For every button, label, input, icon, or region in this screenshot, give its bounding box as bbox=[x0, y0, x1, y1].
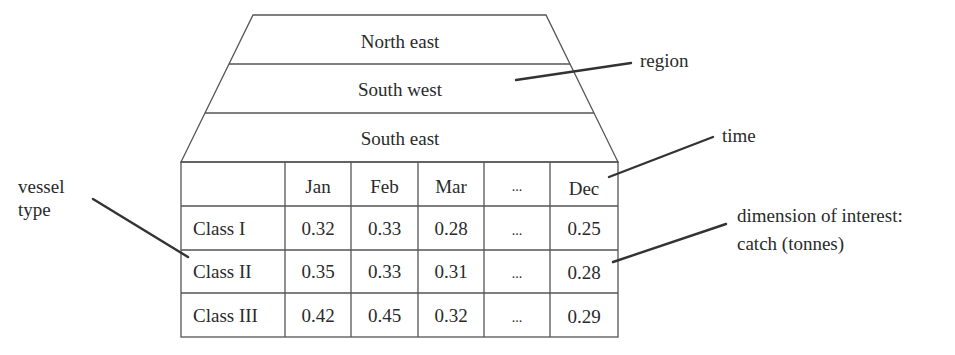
table-cell: ... bbox=[484, 220, 550, 242]
table-cell: 0.25 bbox=[550, 218, 618, 240]
table-cell: 0.35 bbox=[285, 261, 351, 283]
table-cell: ... bbox=[484, 263, 550, 285]
table-cell: 0.45 bbox=[351, 305, 418, 327]
table-cell: 0.33 bbox=[351, 218, 418, 240]
annotation-measure-line2: catch (tonnes) bbox=[737, 233, 844, 255]
table-cell: 0.28 bbox=[550, 262, 618, 284]
region-label-south-west: South west bbox=[300, 79, 500, 101]
table-cell: 0.33 bbox=[351, 261, 418, 283]
annotation-measure-line1: dimension of interest: bbox=[737, 205, 903, 227]
table-cell: 0.32 bbox=[285, 218, 351, 240]
column-header-feb: Feb bbox=[351, 176, 418, 198]
vessel-type-pointer bbox=[93, 199, 188, 257]
region-pointer bbox=[516, 63, 631, 80]
column-header-jan: Jan bbox=[285, 176, 351, 198]
column-header-ellipsis: ... bbox=[484, 176, 550, 198]
table-cell: 0.32 bbox=[418, 305, 484, 327]
row-label-class-ii: Class II bbox=[181, 261, 285, 283]
table-cell: 0.28 bbox=[418, 218, 484, 240]
time-pointer bbox=[609, 137, 713, 177]
measure-pointer bbox=[613, 224, 726, 262]
row-label-class-iii: Class III bbox=[181, 305, 285, 327]
column-header-dec: Dec bbox=[550, 178, 618, 200]
table-cell: 0.29 bbox=[550, 306, 618, 328]
table-cell: 0.31 bbox=[418, 261, 484, 283]
table-cell: 0.42 bbox=[285, 305, 351, 327]
annotation-vessel-line1: vessel bbox=[18, 176, 64, 198]
region-label-north-east: North east bbox=[300, 31, 500, 53]
region-label-south-east: South east bbox=[300, 128, 500, 150]
annotation-vessel-line2: type bbox=[18, 199, 51, 221]
table-cell: ... bbox=[484, 307, 550, 329]
row-label-class-i: Class I bbox=[181, 218, 285, 240]
column-header-mar: Mar bbox=[418, 176, 484, 198]
annotation-region: region bbox=[640, 50, 689, 72]
annotation-time: time bbox=[722, 125, 756, 147]
